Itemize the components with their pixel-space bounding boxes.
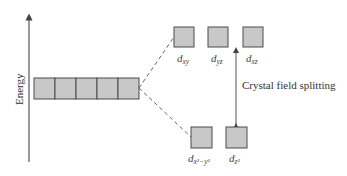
dashed-connector-lower (139, 88, 191, 137)
orbital-box-dxy (174, 27, 194, 47)
label-dxy: dxy (177, 52, 190, 66)
upper-orbital-set: dxy dyz dxz (174, 27, 263, 66)
orbital-box (97, 78, 118, 99)
orbital-box-dyz (208, 27, 228, 47)
orbital-box (34, 78, 55, 99)
crystal-field-diagram: Energy dxy dyz dxz Crystal field splitti… (0, 0, 347, 176)
degenerate-orbital-set (34, 78, 139, 99)
orbital-box-dz2 (226, 127, 247, 148)
orbital-box-dx2y2 (191, 127, 212, 148)
dashed-connector-upper (139, 37, 174, 88)
orbital-box (55, 78, 76, 99)
label-dyz: dyz (211, 52, 223, 66)
orbital-box (76, 78, 97, 99)
label-dz2: dz² (229, 152, 240, 166)
energy-axis-label: Energy (13, 73, 25, 105)
orbital-box-dxz (243, 27, 263, 47)
label-dxz: dxz (246, 52, 258, 66)
label-dx2y2: dx²−y² (188, 152, 210, 166)
splitting-label: Crystal field splitting (242, 79, 336, 91)
lower-orbital-set: dx²−y² dz² (188, 127, 247, 166)
orbital-box (118, 78, 139, 99)
